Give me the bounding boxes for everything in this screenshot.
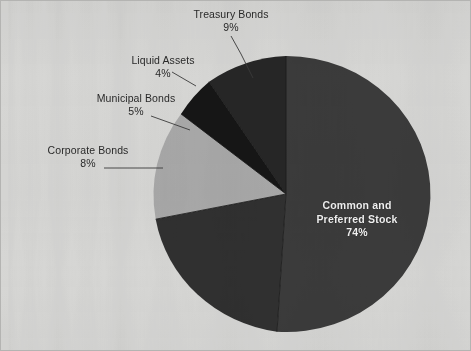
slice-label-common-and-preferred-stock-line2: Preferred Stock — [316, 213, 397, 225]
pie-chart-plot-area — [0, 0, 471, 351]
slice-label-treasury-bonds: Treasury Bonds 9% — [172, 8, 290, 34]
slice-label-municipal-bonds-name: Municipal Bonds — [97, 92, 176, 104]
pie-slice-common-and-preferred-stock[interactable] — [277, 56, 430, 332]
slice-label-liquid-assets-name: Liquid Assets — [131, 54, 194, 66]
slice-label-corporate-bonds-name: Corporate Bonds — [48, 144, 129, 156]
slice-label-corporate-bonds: Corporate Bonds 8% — [24, 144, 152, 170]
pie-chart-figure: Treasury Bonds 9% Liquid Assets 4% Munic… — [0, 0, 471, 351]
slice-label-treasury-bonds-value: 9% — [172, 21, 290, 34]
slice-label-liquid-assets: Liquid Assets 4% — [108, 54, 218, 80]
slice-label-municipal-bonds: Municipal Bonds 5% — [72, 92, 200, 118]
slice-label-municipal-bonds-value: 5% — [72, 105, 200, 118]
slice-label-liquid-assets-value: 4% — [108, 67, 218, 80]
slice-label-corporate-bonds-value: 8% — [24, 157, 152, 170]
slice-label-common-and-preferred-stock-line1: Common and — [322, 199, 391, 211]
slice-label-treasury-bonds-name: Treasury Bonds — [193, 8, 268, 20]
slice-label-common-and-preferred-stock: Common and Preferred Stock 74% — [295, 199, 419, 240]
slice-label-common-and-preferred-stock-value: 74% — [346, 226, 368, 238]
